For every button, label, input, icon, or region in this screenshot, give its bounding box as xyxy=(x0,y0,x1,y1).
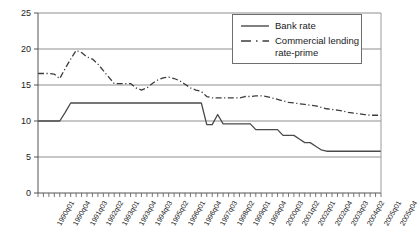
legend-label-commercial-lending: Commercial lendingrate-prime xyxy=(275,35,359,58)
legend-label-bank-rate: Bank rate xyxy=(275,20,316,32)
legend-key-solid-line xyxy=(240,20,270,32)
series-line-bank-rate xyxy=(38,103,381,151)
legend-label-commercial-lending-line2: rate-prime xyxy=(275,47,318,58)
legend-item-commercial-lending: Commercial lendingrate-prime xyxy=(240,35,359,58)
y-tick-label: 25 xyxy=(21,8,31,18)
data-series-layer xyxy=(38,50,381,151)
y-tick-label: 0 xyxy=(26,188,31,198)
y-tick-label: 20 xyxy=(21,44,31,54)
y-tick-label: 5 xyxy=(26,152,31,162)
y-tick-label: 10 xyxy=(21,116,31,126)
chart-legend: Bank rate Commercial lendingrate-prime xyxy=(232,14,362,64)
y-tick-label: 15 xyxy=(21,80,31,90)
x-tick-label: 2005q04 xyxy=(398,199,419,227)
legend-label-commercial-lending-line1: Commercial lending xyxy=(275,35,359,46)
legend-key-dash-dot-line xyxy=(240,35,270,47)
y-axis-ticks: 0510152025 xyxy=(21,8,38,198)
x-axis-ticks xyxy=(38,193,381,197)
legend-item-bank-rate: Bank rate xyxy=(240,20,316,32)
